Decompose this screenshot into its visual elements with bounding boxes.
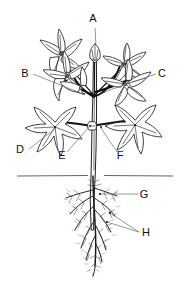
flower-center-lf [80, 87, 83, 90]
label-g: G [140, 188, 149, 200]
leader-line-a [95, 28, 96, 46]
label-a: A [89, 12, 97, 24]
petal-rl-5 [127, 87, 146, 101]
flower-bud-central [90, 44, 101, 63]
petal-ul-2 [58, 29, 65, 52]
root-lateral-l2 [70, 196, 93, 214]
node-dot-b [83, 93, 85, 95]
label-h: H [142, 226, 150, 238]
leaf-left-node [54, 126, 56, 128]
leader-line-f [101, 128, 117, 152]
petal-rl-4 [115, 87, 128, 106]
leader-dot-g [99, 193, 101, 195]
label-f: F [117, 149, 124, 161]
leaf-left [25, 107, 82, 156]
petal-lf-2 [80, 67, 86, 85]
root-lateral-l1 [66, 190, 93, 198]
flower-right-lower [101, 59, 151, 106]
node-dot-f [100, 126, 102, 128]
node-dot-e [89, 125, 91, 127]
leader-dot-h1 [109, 212, 111, 214]
petal-ur-3 [103, 56, 122, 66]
soil-line-right [104, 176, 173, 177]
plant-illustration-canvas: A B C D E F G H [0, 0, 191, 293]
leader-dot-h2 [106, 221, 108, 223]
soil-line-left [17, 176, 88, 177]
leader-line-h1 [110, 213, 139, 232]
label-c: C [158, 67, 166, 79]
plant-diagram-figure: A B C D E F G H [0, 0, 191, 293]
leader-line-h2 [107, 222, 139, 232]
taproot-tip [93, 266, 95, 276]
label-b: B [21, 67, 28, 79]
label-e: E [58, 149, 65, 161]
leaf-right-node [134, 124, 136, 126]
leaf-left-blade [25, 107, 82, 156]
label-d: D [16, 143, 24, 155]
